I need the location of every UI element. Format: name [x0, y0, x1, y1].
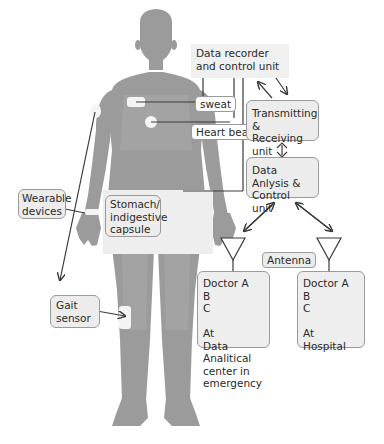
gait-sensor-label-box: Gait sensor	[50, 295, 100, 328]
doctor-line: C	[303, 302, 359, 315]
doctor-line	[203, 315, 264, 328]
antenna-left-icon	[221, 238, 245, 260]
doctor-line	[303, 315, 359, 328]
doctor-hospital-box: Doctor A B C At Hospital	[297, 271, 365, 348]
sweat-label: sweat	[195, 96, 236, 112]
doctor-line: At	[303, 327, 359, 340]
wrist-wearable-sensor	[85, 209, 99, 215]
data-recorder-label: Data recorder and control unit	[196, 47, 279, 72]
gait-sensor-label: Gait sensor	[56, 299, 91, 324]
doctor-line: Hospital	[303, 340, 359, 353]
doctor-line: Doctor A	[203, 277, 264, 290]
doctor-line: center in	[203, 365, 264, 378]
doctor-line: B	[303, 290, 359, 303]
wearable-devices-label-box: Wearable devices	[18, 189, 66, 219]
antenna-label: Antenna	[262, 252, 316, 268]
doctor-line: emergency	[203, 377, 264, 390]
doctor-line: Doctor A	[303, 277, 359, 290]
stomach-capsule-label: Stomach/ indigestive capsule	[110, 198, 167, 235]
wearable-devices-label: Wearable devices	[22, 192, 71, 217]
doctor-line: C	[203, 302, 264, 315]
doctor-emergency-box: Doctor A B C At Data Analitical center i…	[197, 271, 270, 348]
data-analysis-unit: Data Anlysis & Control unit	[246, 157, 319, 198]
doctor-line: B	[203, 290, 264, 303]
stomach-capsule-label-box: Stomach/ indigestive capsule	[105, 195, 161, 237]
doctor-line: At	[203, 327, 264, 340]
doctor-line: Data Analitical	[203, 340, 264, 365]
data-recorder-unit: Data recorder and control unit	[191, 44, 289, 78]
antenna-right-icon	[317, 238, 341, 260]
knee-gait-sensor	[119, 306, 131, 329]
transmitting-receiving-unit: Transmitting & Receiving unit	[246, 100, 319, 141]
arm-wearable-sensor	[91, 104, 101, 118]
